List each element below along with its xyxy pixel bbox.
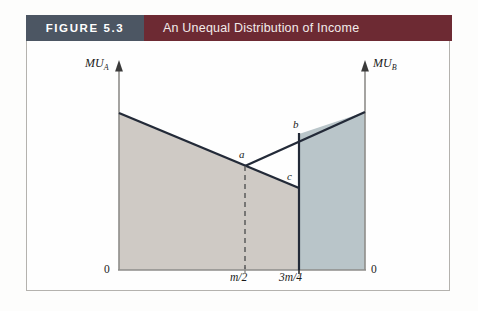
shaded-region-total-utility-B (299, 112, 365, 270)
figure-page: FIGURE 5.3 An Unequal Distribution of In… (0, 0, 478, 311)
point-label-b: b (293, 118, 299, 130)
point-label-c: c (287, 170, 292, 182)
left-origin-label: 0 (104, 263, 110, 275)
point-label-a: a (239, 148, 245, 160)
shaded-region-total-utility-A (119, 113, 299, 270)
right-axis-title: MUB (373, 56, 397, 72)
right-axis-title-text: MU (373, 56, 392, 70)
right-axis-arrowhead (361, 60, 369, 72)
right-origin-label: 0 (371, 263, 377, 275)
tick-label-3m-over-4: 3m/4 (279, 271, 302, 283)
tick-label-m-over-2: m/2 (230, 271, 247, 283)
left-axis-title-subscript: A (104, 63, 109, 72)
left-axis-arrowhead (115, 60, 123, 72)
right-axis-title-subscript: B (392, 63, 397, 72)
left-axis-title-text: MU (85, 56, 104, 70)
left-axis-title: MUA (85, 56, 109, 72)
